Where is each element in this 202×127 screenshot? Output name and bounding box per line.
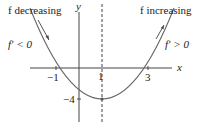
- tick-label-neg4: −4: [63, 93, 75, 105]
- tick-label-1: 1: [98, 70, 104, 82]
- arrow-head-up: [161, 25, 164, 30]
- function-graph: f decreasing f increasing f′ < 0 f′ > 0 …: [0, 0, 202, 127]
- label-fprime-positive: f′ > 0: [165, 38, 189, 50]
- label-f-increasing: f increasing: [140, 4, 192, 16]
- arrow-head-down: [46, 35, 50, 40]
- vertex-point: [100, 97, 103, 100]
- label-fprime-negative: f′ < 0: [8, 38, 32, 50]
- tick-label-3: 3: [145, 71, 151, 83]
- label-f-decreasing: f decreasing: [8, 4, 62, 16]
- x-axis-label: x: [176, 61, 182, 73]
- y-axis-label: y: [75, 0, 81, 12]
- tick-label-neg1: −1: [47, 71, 59, 83]
